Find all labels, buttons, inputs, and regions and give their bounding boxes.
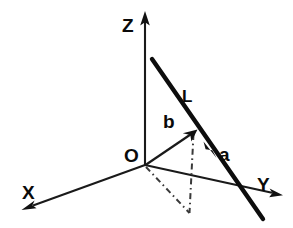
vertical-projection-line (190, 134, 194, 213)
vector-b-shaft (146, 135, 191, 166)
x-axis (22, 165, 146, 210)
x-axis-line (33, 165, 145, 206)
vector-label-b: b (163, 112, 175, 131)
y-axis-line (145, 165, 272, 193)
axis-label-x: X (22, 183, 35, 202)
line-L-stroke (152, 59, 263, 219)
line-L (152, 59, 263, 219)
line-label-L: L (182, 88, 192, 105)
axis-label-z: Z (122, 16, 134, 35)
vector-label-a: a (219, 145, 230, 164)
diagram-canvas (0, 0, 293, 228)
origin-label: O (124, 146, 139, 165)
axis-label-y: Y (257, 175, 270, 194)
vector-diagram-figure: Z X Y O L b a (0, 0, 293, 228)
vector-b (146, 130, 198, 166)
z-axis (140, 11, 150, 165)
